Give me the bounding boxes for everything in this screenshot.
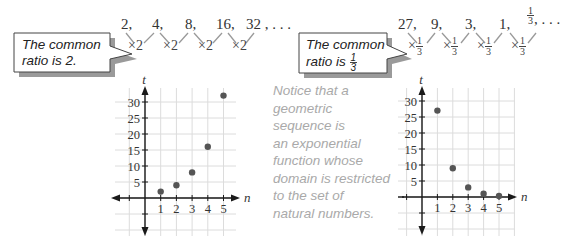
- y-tick-label: 25: [405, 111, 418, 125]
- x-tick-label: 4: [480, 201, 487, 215]
- data-point: [434, 107, 440, 113]
- axes: 1234551015202530nt: [398, 72, 528, 235]
- arrow-up-icon: [419, 86, 426, 95]
- x-axis-label: n: [521, 189, 528, 204]
- x-tick-label: 5: [496, 201, 502, 215]
- y-tick-label: 10: [405, 159, 418, 173]
- y-tick-label: 30: [405, 95, 418, 109]
- data-point: [450, 165, 456, 171]
- y-tick-label: 15: [405, 143, 418, 157]
- y-axis-label: t: [419, 72, 423, 87]
- data-point: [480, 191, 486, 197]
- data-point: [465, 184, 471, 190]
- arrow-down-icon: [419, 226, 426, 235]
- x-tick-label: 2: [450, 201, 456, 215]
- x-tick-label: 3: [465, 201, 471, 215]
- y-tick-label: 20: [405, 127, 418, 141]
- y-tick-label: 5: [411, 175, 417, 189]
- data-point: [496, 193, 502, 199]
- chart-ratio-one-third: 1234551015202530nt: [0, 0, 567, 243]
- arrow-right-icon: [508, 194, 517, 201]
- chart-canvas: 1234551015202530nt: [0, 0, 567, 243]
- x-tick-label: 1: [434, 201, 440, 215]
